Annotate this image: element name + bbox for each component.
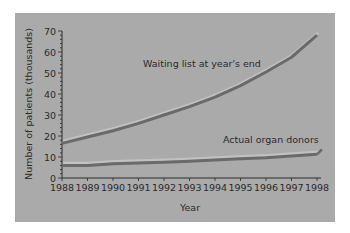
line-chart: 010203040506070 198819891990199119921993…	[0, 0, 350, 233]
y-tick-label: 10	[44, 152, 56, 163]
y-tick-label: 50	[44, 68, 56, 79]
y-axis-title: Number of patients (thousands)	[23, 28, 34, 180]
series-line-0	[62, 35, 317, 143]
y-axis: 010203040506070	[44, 26, 62, 184]
series-line-1	[62, 154, 317, 165]
y-tick-label: 30	[44, 110, 56, 121]
x-tick-label: 1988	[50, 182, 74, 193]
waiting-list-label: Waiting list at year's end	[143, 58, 261, 69]
y-tick-label: 60	[44, 47, 56, 58]
x-tick-label: 1992	[152, 182, 176, 193]
y-tick-label: 40	[44, 89, 56, 100]
y-tick-label: 70	[44, 26, 56, 37]
x-tick-label: 1989	[75, 182, 99, 193]
x-tick-label: 1993	[177, 182, 201, 193]
x-axis: 1988198919901991199219931994199519961997…	[50, 178, 329, 193]
x-tick-label: 1998	[305, 182, 329, 193]
x-tick-label: 1997	[279, 182, 303, 193]
x-tick-label: 1996	[254, 182, 278, 193]
organ-donors-label: Actual organ donors	[223, 134, 319, 145]
x-tick-label: 1994	[203, 182, 227, 193]
x-tick-label: 1990	[101, 182, 125, 193]
x-tick-label: 1991	[126, 182, 150, 193]
y-tick-label: 20	[44, 131, 56, 142]
series-lines	[62, 33, 322, 166]
x-tick-label: 1995	[228, 182, 252, 193]
x-axis-title: Year	[179, 202, 200, 213]
